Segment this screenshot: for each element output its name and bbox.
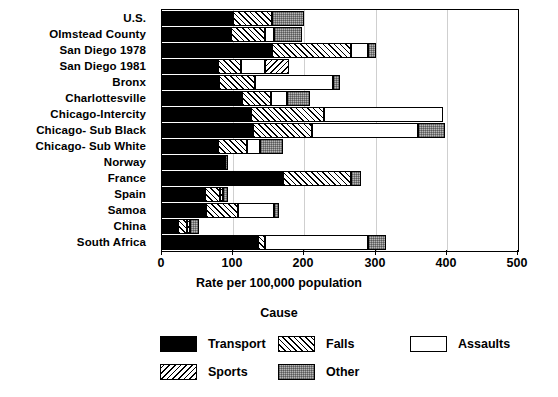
legend-label: Falls (326, 334, 355, 354)
bar-segment-assaults (271, 91, 287, 106)
bar-segment-transport (162, 235, 258, 250)
legend-swatch-icon (160, 364, 197, 380)
bar-segment-falls (218, 59, 241, 74)
bar-segment-other (223, 187, 228, 202)
bar-segment-falls (283, 171, 351, 186)
bar-segment-transport (162, 219, 178, 234)
bar-segment-transport (162, 155, 225, 170)
category-label: Norway (104, 155, 146, 170)
category-label: Chicago- Sub White (36, 139, 146, 154)
x-tick (232, 250, 233, 255)
category-label: San Diego 1981 (60, 59, 146, 74)
legend-swatch-icon (410, 336, 447, 352)
bar-segment-other (351, 171, 362, 186)
legend-title: Cause (0, 306, 558, 320)
x-tick (303, 250, 304, 255)
bar-segment-assaults (265, 27, 274, 42)
x-tick (517, 250, 518, 255)
category-label: Olmstead County (49, 27, 146, 42)
category-label: Charlottesville (65, 91, 146, 106)
x-tick-label: 500 (487, 256, 547, 270)
bar-segment-falls (258, 235, 265, 250)
category-label: San Diego 1978 (60, 43, 146, 58)
category-label: South Africa (77, 235, 146, 250)
bar-segment-falls (178, 219, 187, 234)
category-label: France (108, 171, 146, 186)
legend-label: Other (326, 362, 359, 382)
category-label: U.S. (123, 11, 146, 26)
bar-segment-transport (162, 59, 218, 74)
bar-segment-falls (206, 203, 238, 218)
bar-segment-other (272, 11, 304, 26)
x-tick-label: 100 (202, 256, 262, 270)
bar-segment-assaults (238, 203, 274, 218)
bar-segment-falls (205, 187, 221, 202)
legend: Cause TransportFallsAssaultsSportsOther (0, 306, 558, 396)
bar-segment-assaults (351, 43, 369, 58)
bar-segment-transport (162, 171, 283, 186)
stacked-bar-chart: U.S.Olmstead CountySan Diego 1978San Die… (0, 0, 558, 397)
legend-swatch-icon (160, 336, 197, 352)
bar-segment-transport (162, 11, 233, 26)
bar-segment-transport (162, 43, 272, 58)
bar-segment-transport (162, 187, 205, 202)
bar-segment-assaults (241, 59, 264, 74)
bar-segment-assaults (265, 235, 368, 250)
bar-segment-assaults (247, 139, 259, 154)
bar-segment-assaults (255, 75, 333, 90)
legend-swatch-icon (278, 336, 315, 352)
bar-segment-falls (233, 11, 272, 26)
bar-segment-other (274, 27, 302, 42)
bar-segment-falls (219, 75, 255, 90)
bar-segment-other (287, 91, 310, 106)
bar-segment-other (260, 139, 283, 154)
x-tick-label: 0 (131, 256, 191, 270)
bars-container (162, 10, 518, 251)
x-tick (375, 250, 376, 255)
bar-segment-transport (162, 27, 231, 42)
x-tick (446, 250, 447, 255)
bar-segment-falls (251, 107, 324, 122)
gridline (447, 10, 448, 251)
x-tick-label: 400 (416, 256, 476, 270)
bar-segment-transport (162, 91, 242, 106)
category-label: Samoa (108, 203, 146, 218)
x-axis-title: Rate per 100,000 population (0, 276, 558, 290)
bar-segment-other (190, 219, 199, 234)
category-axis-labels: U.S.Olmstead CountySan Diego 1978San Die… (0, 10, 152, 248)
bar-segment-sports (265, 59, 290, 74)
bar-segment-falls (231, 27, 265, 42)
category-label: China (114, 219, 146, 234)
x-tick (161, 250, 162, 255)
bar-segment-assaults (324, 107, 443, 122)
x-tick-label: 200 (273, 256, 333, 270)
bar-segment-transport (162, 107, 251, 122)
category-label: Spain (114, 187, 146, 202)
category-label: Bronx (112, 75, 146, 90)
bar-segment-assaults (312, 123, 419, 138)
legend-label: Sports (208, 362, 248, 382)
bar-segment-falls (242, 91, 270, 106)
category-label: Chicago-Intercity (50, 107, 146, 122)
bar-segment-other (333, 75, 340, 90)
bar-segment-transport (162, 123, 253, 138)
bar-segment-other (368, 43, 375, 58)
bar-segment-other (368, 235, 386, 250)
legend-label: Transport (208, 334, 266, 354)
bar-segment-other (274, 203, 280, 218)
x-tick-label: 300 (345, 256, 405, 270)
category-label: Chicago- Sub Black (36, 123, 146, 138)
plot-area (161, 9, 519, 252)
bar-segment-transport (162, 75, 219, 90)
bar-segment-other (225, 155, 229, 170)
bar-segment-transport (162, 203, 206, 218)
bar-segment-other (418, 123, 444, 138)
bar-segment-falls (253, 123, 311, 138)
bar-segment-falls (272, 43, 350, 58)
legend-label: Assaults (458, 334, 510, 354)
legend-swatch-icon (278, 364, 315, 380)
bar-segment-falls (218, 139, 248, 154)
bar-segment-transport (162, 139, 218, 154)
